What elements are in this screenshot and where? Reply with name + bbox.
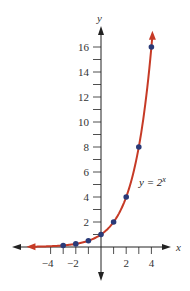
y-axis-label: y bbox=[96, 12, 102, 24]
x-tick-label: 2 bbox=[123, 257, 129, 269]
data-point bbox=[123, 194, 129, 200]
curve-layer bbox=[26, 31, 155, 250]
x-axis-right-arrow-icon bbox=[162, 244, 171, 250]
curve-left-arrow-icon bbox=[26, 243, 35, 250]
y-tick-label: 2 bbox=[84, 216, 90, 228]
y-tick-label: 12 bbox=[78, 91, 89, 103]
y-axis-up-arrow-icon bbox=[98, 26, 104, 35]
data-point bbox=[73, 241, 79, 247]
data-points bbox=[60, 44, 154, 248]
curve-label-base: y = 2 bbox=[138, 176, 163, 188]
y-tick-label: 16 bbox=[78, 41, 90, 53]
y-tick-label: 4 bbox=[84, 191, 90, 203]
axes bbox=[12, 26, 171, 281]
y-tick-label: 10 bbox=[78, 116, 90, 128]
y-tick-label: 14 bbox=[78, 66, 90, 78]
data-point bbox=[136, 144, 142, 150]
x-axis-left-arrow-icon bbox=[12, 244, 21, 250]
data-point bbox=[149, 44, 155, 50]
curve-up-arrow-icon bbox=[149, 31, 156, 40]
x-tick-label: −4 bbox=[42, 257, 54, 269]
curve-label-exponent: x bbox=[161, 175, 166, 184]
y-tick-label: 8 bbox=[84, 141, 90, 153]
y-axis-down-arrow-icon bbox=[98, 272, 104, 281]
data-point bbox=[111, 219, 117, 225]
data-point bbox=[86, 238, 92, 244]
exponential-graph: −4−224246810121416 x y y = 2x bbox=[0, 0, 190, 291]
data-point bbox=[60, 243, 66, 249]
curve-label: y = 2x bbox=[138, 175, 166, 188]
y-tick-label: 6 bbox=[84, 166, 90, 178]
x-tick-label: 4 bbox=[149, 257, 155, 269]
x-tick-label: −2 bbox=[67, 257, 79, 269]
curve-path bbox=[30, 36, 152, 247]
x-axis-label: x bbox=[175, 241, 181, 253]
data-point bbox=[98, 232, 104, 238]
